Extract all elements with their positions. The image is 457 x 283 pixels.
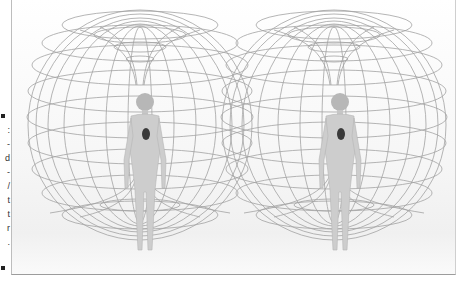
caption-glyph: : — [0, 125, 10, 135]
caption-bullet-bottom — [1, 266, 5, 270]
person-right — [319, 93, 361, 250]
caption-glyph: t — [0, 209, 10, 219]
caption-glyph: t — [0, 195, 10, 205]
caption-bullet-top — [1, 114, 5, 118]
caption-glyph: d — [0, 153, 10, 163]
caption-glyph: - — [0, 139, 10, 149]
caption-glyph: r — [0, 223, 10, 233]
torus-field-illustration — [11, 0, 456, 275]
caption-glyph: - — [0, 167, 10, 177]
person-left — [124, 93, 166, 250]
caption-glyph: . — [0, 237, 10, 247]
torus-wireframe-drawing — [12, 0, 455, 274]
truncated-caption-column: : - d - / t t r . — [0, 0, 11, 283]
caption-glyph: / — [0, 181, 10, 191]
